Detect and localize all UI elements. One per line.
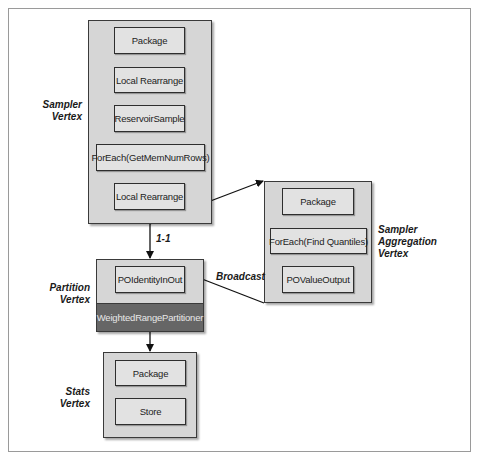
agg-op-package: Package	[282, 188, 354, 215]
stats-op-package: Package	[115, 360, 186, 386]
partition-label-line2: Vertex	[36, 294, 90, 306]
partition-label-line1: Partition	[36, 282, 90, 294]
edge-label-one-to-one: 1-1	[156, 233, 170, 244]
edge-label-broadcast: Broadcast	[216, 271, 265, 282]
agg-op-povalueoutput: POValueOutput	[282, 266, 354, 293]
sampler-label-line1: Sampler	[30, 99, 82, 111]
partition-op-poidentityinout: POIdentityInOut	[115, 266, 185, 293]
stats-label-line1: Stats	[50, 386, 90, 398]
stats-label-line2: Vertex	[50, 398, 90, 410]
partition-vertex: POIdentityInOut WeightedRangePartitioner	[96, 259, 204, 332]
agg-label-line2: Aggregation	[378, 236, 437, 248]
sampler-aggregation-vertex-label: Sampler Aggregation Vertex	[378, 224, 437, 260]
sampler-aggregation-vertex: Package ForEach(Find Quantiles) POValueO…	[264, 181, 372, 303]
sampler-op-foreach-getmemnumrows: ForEach(GetMemNumRows)	[96, 144, 205, 171]
stats-op-store: Store	[115, 398, 186, 425]
partition-vertex-label: Partition Vertex	[36, 282, 90, 306]
agg-op-foreach-find-quantiles: ForEach(Find Quantiles)	[270, 228, 367, 254]
sampler-vertex: Package Local Rearrange ReservoirSample …	[88, 20, 212, 224]
sampler-op-reservoir-sample: ReservoirSample	[114, 105, 185, 132]
sampler-vertex-label: Sampler Vertex	[30, 99, 82, 123]
sampler-op-local-rearrange-1: Local Rearrange	[114, 67, 185, 93]
stats-vertex-label: Stats Vertex	[50, 386, 90, 410]
weighted-range-partitioner: WeightedRangePartitioner	[97, 303, 203, 331]
agg-label-line1: Sampler	[378, 224, 437, 236]
sampler-op-package: Package	[114, 27, 185, 54]
stats-vertex: Package Store	[103, 352, 197, 438]
agg-label-line3: Vertex	[378, 248, 437, 260]
sampler-op-local-rearrange-2: Local Rearrange	[114, 183, 185, 210]
sampler-label-line2: Vertex	[30, 111, 82, 123]
